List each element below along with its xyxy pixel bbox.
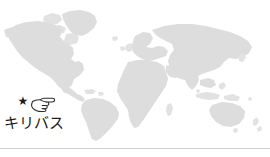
region-india bbox=[185, 71, 199, 90]
region-greenland bbox=[62, 10, 97, 36]
region-tasmania bbox=[233, 128, 238, 133]
region-new-guinea bbox=[224, 94, 240, 101]
location-annotation: ★ キリバス bbox=[4, 94, 74, 140]
pointing-hand-left-icon bbox=[29, 94, 57, 116]
region-ireland bbox=[120, 46, 125, 51]
region-south-america bbox=[81, 98, 119, 141]
region-new-zealand-2 bbox=[257, 126, 262, 132]
region-new-zealand bbox=[253, 117, 259, 126]
region-sri-lanka bbox=[196, 89, 200, 93]
region-indonesia bbox=[196, 92, 220, 100]
region-philippines bbox=[219, 82, 226, 90]
star-marker-icon: ★ bbox=[17, 95, 29, 107]
region-caribbean bbox=[84, 89, 96, 94]
region-madagascar bbox=[166, 103, 173, 116]
region-australia bbox=[209, 102, 245, 127]
bottom-divider bbox=[0, 148, 270, 149]
country-label: キリバス bbox=[4, 114, 64, 132]
region-caribbean-2 bbox=[98, 92, 104, 96]
region-africa bbox=[117, 60, 168, 128]
region-pacific-islands bbox=[248, 97, 252, 101]
region-southeast-asia bbox=[200, 78, 216, 88]
marker-row: ★ bbox=[4, 94, 74, 116]
map-screenshot: ★ キリバス bbox=[0, 0, 270, 157]
region-iceland bbox=[112, 36, 118, 41]
